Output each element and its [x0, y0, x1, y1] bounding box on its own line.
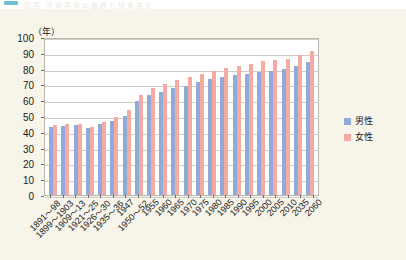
x-axis-tick: [100, 195, 101, 198]
legend-label: 男性: [355, 117, 373, 126]
bar-female: [286, 59, 290, 196]
x-axis-tick: [275, 195, 276, 198]
bar-female: [102, 122, 106, 195]
bar-female: [237, 66, 241, 195]
x-axis-tick: [138, 195, 139, 198]
x-axis-tick: [250, 195, 251, 198]
x-axis-tick: [75, 195, 76, 198]
bar-female: [261, 61, 265, 195]
bar-female: [298, 55, 302, 195]
bar-group: [231, 39, 243, 195]
x-axis-tick: [175, 195, 176, 198]
bar-group: [255, 39, 267, 195]
legend-swatch: [344, 134, 351, 141]
bar-female: [151, 88, 155, 195]
x-axis-tick: [88, 195, 89, 198]
bar-female: [273, 60, 277, 195]
x-axis-tick: [213, 195, 214, 198]
bar-group: [84, 39, 96, 195]
x-axis-tick: [125, 195, 126, 198]
bar-female: [249, 64, 253, 195]
bar-group: [133, 39, 145, 195]
y-axis-tick-label: 30: [23, 143, 34, 154]
y-axis-tick-label: 70: [23, 80, 34, 91]
x-axis-tick: [300, 195, 301, 198]
x-axis-tick: [225, 195, 226, 198]
y-axis-unit-label: （年）: [33, 25, 60, 38]
bar-group: [145, 39, 157, 195]
legend-item: 男性: [344, 117, 373, 126]
x-axis-tick: [163, 195, 164, 198]
x-axis-tick: [313, 195, 314, 198]
title-strip: 図表 平均寿命の推移と将来推計: [0, 0, 406, 9]
y-axis-tick-label: 50: [23, 112, 34, 123]
bar-group: [169, 39, 181, 195]
chart-page: 図表 平均寿命の推移と将来推計 （年） 10090807060504030201…: [0, 0, 406, 260]
x-axis-labels: 1891～981899～19031909～131921～251926～30193…: [44, 197, 319, 260]
bar-group: [279, 39, 291, 195]
bar-group: [120, 39, 132, 195]
x-axis-tick: [63, 195, 64, 198]
title-marker-icon: [4, 1, 18, 5]
plot-area: [44, 38, 319, 196]
bar-female: [90, 127, 94, 195]
bar-female: [127, 110, 131, 195]
y-axis-tick-label: 20: [23, 159, 34, 170]
y-axis-tick-label: 10: [23, 175, 34, 186]
bar-group: [304, 39, 316, 195]
bar-female: [139, 95, 143, 195]
x-axis-tick: [238, 195, 239, 198]
bar-female: [212, 71, 216, 196]
bar-series-container: [45, 39, 318, 195]
y-axis-tick-label: 100: [17, 33, 34, 44]
title-ghost-text: 図表 平均寿命の推移と将来推計: [24, 0, 154, 9]
x-axis-tick: [188, 195, 189, 198]
bar-female: [53, 125, 57, 195]
bar-group: [206, 39, 218, 195]
bar-female: [175, 80, 179, 195]
x-axis-tick: [50, 195, 51, 198]
bar-female: [163, 84, 167, 195]
x-axis-tick: [288, 195, 289, 198]
chart-panel: （年） 1009080706050403020100 1891～981899～1…: [0, 9, 406, 260]
y-axis-tick-label: 60: [23, 96, 34, 107]
bar-female: [65, 124, 69, 195]
x-axis-tick: [200, 195, 201, 198]
y-axis-tick-label: 40: [23, 127, 34, 138]
x-axis-tick: [113, 195, 114, 198]
bar-group: [108, 39, 120, 195]
bar-female: [200, 74, 204, 196]
legend-swatch: [344, 118, 351, 125]
y-axis-tick-label: 0: [28, 191, 34, 202]
bar-group: [47, 39, 59, 195]
bar-female: [310, 51, 314, 195]
bar-female: [78, 124, 82, 195]
bar-group: [59, 39, 71, 195]
y-axis-tick-label: 90: [23, 48, 34, 59]
bar-group: [267, 39, 279, 195]
bar-female: [224, 68, 228, 195]
bar-group: [243, 39, 255, 195]
bar-female: [114, 117, 118, 195]
x-axis-tick: [263, 195, 264, 198]
y-axis: 1009080706050403020100: [0, 38, 41, 196]
legend-label: 女性: [355, 133, 373, 142]
legend: 男性女性: [344, 117, 373, 149]
y-axis-tick-label: 80: [23, 64, 34, 75]
bar-group: [96, 39, 108, 195]
bar-group: [292, 39, 304, 195]
bar-group: [194, 39, 206, 195]
bar-female: [188, 77, 192, 195]
bar-group: [71, 39, 83, 195]
legend-item: 女性: [344, 133, 373, 142]
bar-group: [157, 39, 169, 195]
bar-group: [218, 39, 230, 195]
x-axis-tick: [150, 195, 151, 198]
bar-group: [182, 39, 194, 195]
